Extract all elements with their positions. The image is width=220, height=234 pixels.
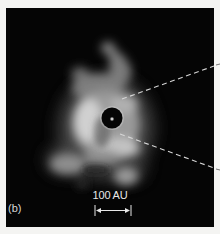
arrow-left-icon bbox=[96, 208, 101, 213]
scale-bar-label: 100 AU bbox=[90, 189, 130, 201]
callout-tick-top bbox=[216, 64, 220, 65]
callout-tick-bottom bbox=[216, 169, 220, 170]
arrow-right-icon bbox=[125, 208, 130, 213]
scale-bar bbox=[95, 205, 131, 216]
zoom-lines bbox=[120, 66, 214, 168]
panel-label: (b) bbox=[8, 202, 21, 214]
